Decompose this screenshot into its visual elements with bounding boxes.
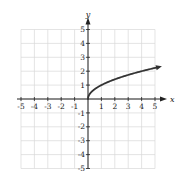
- y-axis-arrow-icon: [86, 18, 91, 25]
- y-tick-label: 5: [80, 25, 85, 34]
- y-tick-label: -5: [78, 164, 86, 173]
- x-tick-label: 4: [139, 102, 144, 111]
- y-tick-label: -2: [78, 122, 86, 131]
- curve-layer: [88, 65, 162, 99]
- x-tick-label: -5: [17, 102, 25, 111]
- x-tick-label: 5: [153, 102, 158, 111]
- chart: -5-4-3-2-112345-5-4-3-2-112345 x y: [0, 0, 183, 180]
- x-tick-label: 1: [99, 102, 104, 111]
- y-tick-label: 3: [80, 53, 85, 62]
- curve-arrow-icon: [156, 65, 162, 70]
- x-axis-label: x: [170, 95, 175, 104]
- y-tick-label: -4: [78, 150, 86, 159]
- axes: [17, 18, 167, 169]
- x-tick-label: -2: [58, 102, 66, 111]
- x-tick-label: -4: [31, 102, 39, 111]
- y-tick-label: -1: [78, 109, 85, 118]
- x-tick-label: 3: [126, 102, 131, 111]
- x-tick-label: 2: [112, 102, 117, 111]
- x-axis-arrow-icon: [160, 97, 167, 102]
- y-tick-label: 4: [80, 39, 85, 48]
- y-tick-label: 1: [80, 81, 85, 90]
- curve-sqrt-x: [88, 67, 159, 99]
- x-tick-label: -3: [44, 102, 52, 111]
- y-axis-label: y: [85, 10, 91, 19]
- y-tick-label: 2: [80, 67, 85, 76]
- y-tick-label: -3: [78, 136, 86, 145]
